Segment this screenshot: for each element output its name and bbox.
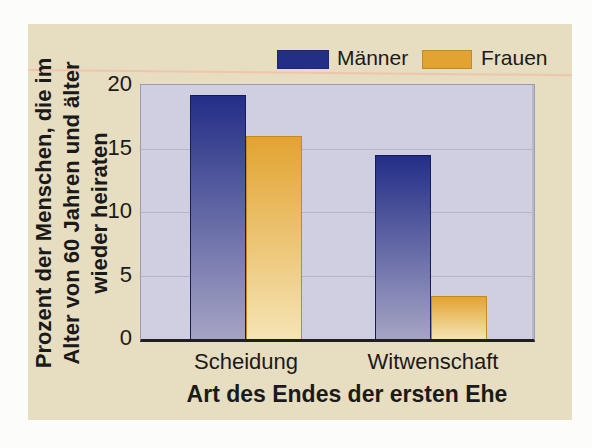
bar-witwenschaft-frauen (431, 296, 487, 339)
legend-swatch-frauen (422, 50, 472, 69)
bar-scheidung-frauen (246, 136, 302, 339)
category-label-scheidung: Scheidung (146, 349, 346, 375)
bars-layer (141, 85, 534, 339)
y-axis-tick-label: 0 (120, 327, 132, 349)
x-axis-title: Art des Endes der ersten Ehe (147, 381, 547, 408)
y-axis-tick-label: 15 (108, 137, 132, 159)
y-axis-tick-label: 20 (108, 73, 132, 95)
legend-swatch-maenner (277, 50, 329, 69)
legend-label-maenner: Männer (337, 46, 408, 70)
bar-witwenschaft-maenner (375, 155, 431, 339)
y-axis-tick-label: 10 (108, 200, 132, 222)
y-axis-tick-label: 5 (120, 264, 132, 286)
category-label-witwenschaft: Witwenschaft (333, 349, 533, 375)
y-axis-ticks: 05101520 (96, 84, 136, 338)
page-background: { "chart_data": { "type": "bar", "catego… (0, 0, 592, 448)
bar-scheidung-maenner (190, 95, 246, 339)
plot-area (140, 84, 535, 342)
legend-label-frauen: Frauen (481, 46, 548, 70)
